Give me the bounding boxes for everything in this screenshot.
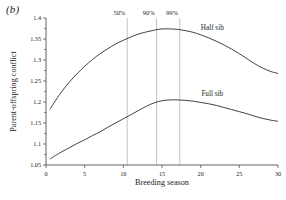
threshold-lines-group [127,18,180,165]
x-axis-tick-labels: 051015202530 [44,170,281,177]
y-tick-label: 1.3 [33,56,41,63]
x-tick-label: 20 [198,170,204,177]
x-tick-label: 0 [44,170,47,177]
panel-label: (b) [6,3,19,15]
parent-offspring-conflict-chart: 50%90%99% 1.051.11.151.21.251.31.351.4 0… [0,0,286,200]
figure-panel-b: (b) 50%90%99% 1.051.11.151.21.251.31.351… [0,0,286,200]
y-tick-label: 1.15 [30,119,41,126]
x-tick-label: 5 [83,170,86,177]
data-curves-group [50,29,278,159]
series-label-full-sib: Full sib [201,90,223,98]
y-tick-label: 1.4 [33,14,41,21]
x-tick-label: 10 [120,170,126,177]
x-tick-label: 25 [236,170,242,177]
x-tick-label: 15 [159,170,165,177]
series-curve-full-sib [50,100,278,159]
threshold-label: 90% [143,9,155,16]
y-axis-ticks [43,18,46,165]
y-axis-tick-labels: 1.051.11.151.21.251.31.351.4 [30,14,41,168]
threshold-label: 99% [166,9,178,16]
curve-labels-group: Half sibFull sib [201,24,224,98]
y-tick-label: 1.2 [33,98,41,105]
y-tick-label: 1.25 [30,77,41,84]
y-tick-label: 1.35 [30,35,41,42]
x-axis-ticks [46,165,278,168]
axes-group: 1.051.11.151.21.251.31.351.4 05101520253… [30,14,281,177]
y-tick-label: 1.05 [30,161,41,168]
y-tick-label: 1.1 [33,140,41,147]
y-axis-title: Parent-offspring conflict [9,51,18,132]
series-curve-half-sib [50,29,278,110]
series-label-half-sib: Half sib [201,24,224,32]
x-axis-title: Breeding season [135,178,189,187]
threshold-label: 50% [113,9,125,16]
x-tick-label: 30 [275,170,281,177]
threshold-labels-group: 50%90%99% [113,9,178,16]
